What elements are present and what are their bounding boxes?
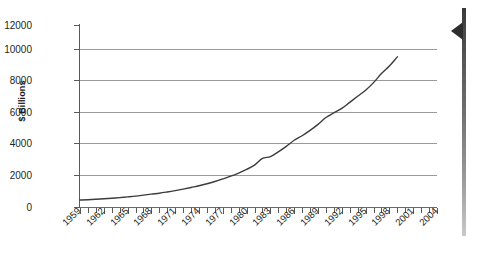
x-axis-tick-labels: 1959196219651968197119741977198019831986… <box>0 214 484 262</box>
x-axis-label-1959: 1959 <box>60 205 83 228</box>
y-tick-mark-4000 <box>74 143 80 144</box>
y-tick-label-12000: 12000 <box>0 20 32 31</box>
y-tick-label-6000: 6000 <box>0 107 32 118</box>
x-tick-1969 <box>159 208 160 213</box>
gridline-10000 <box>80 49 437 50</box>
gridline-8000 <box>80 80 437 81</box>
x-tick-1978 <box>231 208 232 213</box>
page-edge-arrow-icon <box>451 22 463 40</box>
x-tick-1993 <box>350 208 351 213</box>
x-tick-1987 <box>302 208 303 213</box>
y-tick-label-2000: 2000 <box>0 170 32 181</box>
line-chart-figure: $ Billions 12000 10000 8000 6000 4000 20… <box>0 0 484 262</box>
y-tick-label-4000: 4000 <box>0 138 32 149</box>
gridline-2000 <box>80 175 437 176</box>
x-tick-2002 <box>421 208 422 213</box>
y-tick-label-10000: 10000 <box>0 44 32 55</box>
x-tick-1990 <box>326 208 327 213</box>
gridline-4000 <box>80 143 437 144</box>
y-tick-label-8000: 8000 <box>0 75 32 86</box>
plot-area <box>80 25 437 207</box>
x-tick-1975 <box>207 208 208 213</box>
x-tick-1960 <box>88 208 89 213</box>
x-tick-1981 <box>255 208 256 213</box>
x-tick-1966 <box>136 208 137 213</box>
y-tick-mark-12000 <box>74 25 80 26</box>
x-tick-1972 <box>183 208 184 213</box>
y-tick-mark-10000 <box>74 49 80 50</box>
page-edge-shadow-artifact <box>462 8 466 236</box>
y-tick-mark-6000 <box>74 112 80 113</box>
gridline-6000 <box>80 112 437 113</box>
x-tick-1996 <box>374 208 375 213</box>
y-tick-mark-8000 <box>74 80 80 81</box>
y-tick-mark-2000 <box>74 175 80 176</box>
y-axis-title: $ Billions <box>17 61 27 141</box>
x-tick-1963 <box>112 208 113 213</box>
x-tick-1984 <box>278 208 279 213</box>
y-tick-label-0: 0 <box>0 202 32 213</box>
x-tick-1999 <box>397 208 398 213</box>
